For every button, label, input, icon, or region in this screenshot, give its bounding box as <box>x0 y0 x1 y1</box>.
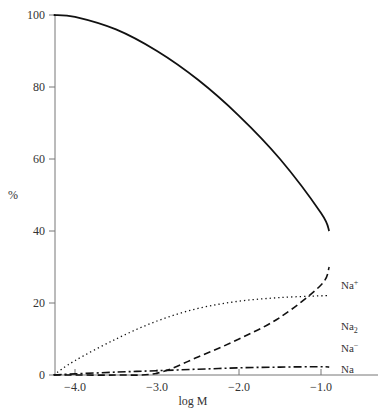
curve-na-plus <box>54 15 330 231</box>
y-tick-label: 20 <box>33 296 45 310</box>
label-na: Na <box>341 363 354 375</box>
curve-na-minus <box>54 296 330 375</box>
y-tick-label: 60 <box>33 152 45 166</box>
y-tick-label: 40 <box>33 224 45 238</box>
label-na-plus: Na+ <box>341 278 359 291</box>
x-axis-label: log M <box>178 394 207 408</box>
chart-svg: 020406080100 −4.0−3.0−2.0−1.0 % log M Na… <box>0 0 378 415</box>
y-tick-label: 0 <box>39 368 45 382</box>
x-tick-label: −2.0 <box>228 380 250 394</box>
label-na-minus: Na− <box>341 341 359 354</box>
chart-container: 020406080100 −4.0−3.0−2.0−1.0 % log M Na… <box>0 0 378 415</box>
curve-na <box>54 367 330 375</box>
y-tick-label: 80 <box>33 80 45 94</box>
curve-na2 <box>54 267 330 375</box>
y-tick-label: 100 <box>27 8 45 22</box>
label-na2: Na2 <box>341 320 358 335</box>
x-tick-label: −3.0 <box>146 380 168 394</box>
x-tick-label: −1.0 <box>310 380 332 394</box>
y-axis-label: % <box>8 188 18 202</box>
y-ticks: 020406080100 <box>27 8 55 382</box>
x-tick-label: −4.0 <box>64 380 86 394</box>
